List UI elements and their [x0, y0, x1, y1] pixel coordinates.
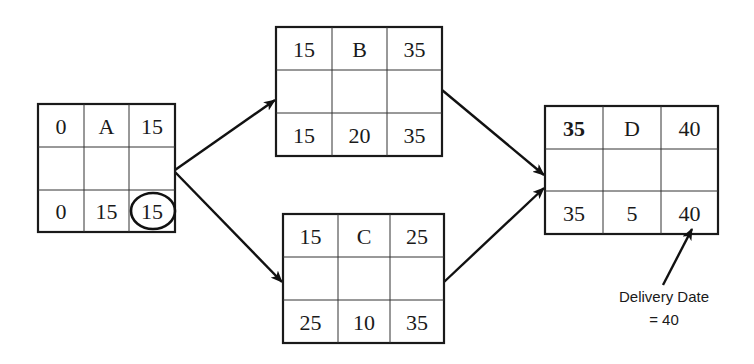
late-finish: 35 [406, 310, 428, 335]
arrow-b-to-d [442, 90, 544, 175]
late-finish: 40 [679, 201, 701, 226]
duration: 10 [353, 310, 375, 335]
activity-nodes: 00A1515151515B2035351525C1025353535D5404… [38, 27, 718, 343]
early-start: 0 [56, 114, 67, 139]
node-b: 1515B203535 [276, 27, 442, 156]
early-finish: 35 [404, 37, 426, 62]
early-start: 15 [293, 37, 315, 62]
early-finish: 15 [141, 114, 163, 139]
early-finish: 40 [679, 116, 701, 141]
late-finish: 35 [404, 123, 426, 148]
late-start: 0 [56, 199, 67, 224]
arrow-a-to-c [175, 172, 282, 282]
arrow-a-to-b [175, 100, 275, 170]
early-start: 35 [563, 116, 585, 141]
duration: 15 [96, 199, 118, 224]
early-finish: 25 [406, 224, 428, 249]
network-diagram: 00A1515151515B2035351525C1025353535D5404… [0, 0, 754, 364]
arrow-c-to-d [444, 188, 544, 282]
late-start: 15 [293, 123, 315, 148]
node-d: 3535D54040 [545, 106, 718, 234]
delivery-date-arrow [663, 229, 692, 285]
node-a: 00A151515 [38, 104, 175, 232]
duration: 5 [627, 201, 638, 226]
activity-name: D [624, 116, 640, 141]
delivery-date-annotation: Delivery Date = 40 [619, 229, 709, 328]
delivery-date-label: Delivery Date [619, 288, 709, 305]
duration: 20 [349, 123, 371, 148]
activity-name: C [357, 224, 372, 249]
delivery-date-value: = 40 [649, 311, 679, 328]
late-start: 35 [563, 201, 585, 226]
late-finish: 15 [141, 199, 163, 224]
late-start: 25 [300, 310, 322, 335]
node-c: 1525C102535 [283, 214, 444, 343]
activity-name: A [99, 114, 115, 139]
activity-name: B [352, 37, 367, 62]
early-start: 15 [300, 224, 322, 249]
